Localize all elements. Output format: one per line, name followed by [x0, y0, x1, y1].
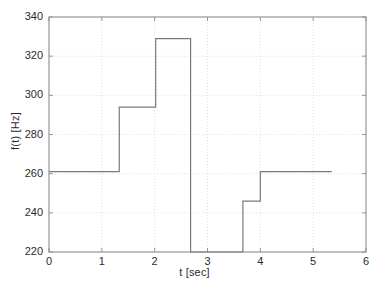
y-axis-label: f(t) [Hz] [9, 81, 21, 181]
data-series-step [49, 39, 332, 252]
y-tick-label: 340 [13, 10, 43, 22]
y-tick-label: 320 [13, 49, 43, 61]
gridlines-group [49, 17, 366, 252]
x-axis-label: t [sec] [0, 266, 389, 278]
step-plot-svg [0, 0, 389, 288]
figure-canvas: 220240260280300320340 0123456 t [sec] f(… [0, 0, 389, 288]
y-tick-label: 240 [13, 206, 43, 218]
y-axis-label-container: f(t) [Hz] [9, 81, 23, 181]
